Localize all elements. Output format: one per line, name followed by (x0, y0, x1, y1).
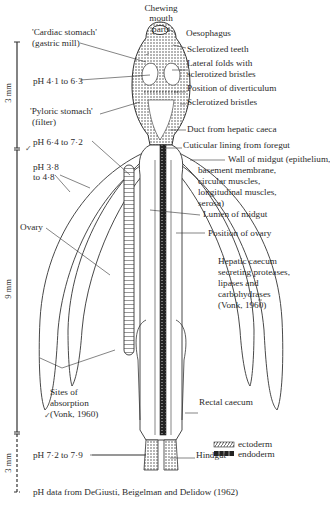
label-lateral-folds-1: Lateral folds with (187, 58, 252, 68)
label-wall-1: Wall of midgut (epithelium, (228, 154, 330, 164)
label-wall-5: serosa) (198, 198, 224, 208)
label-hepatic-5: (Vonk, 1960) (218, 300, 266, 310)
label-hindgut: Hindgut (196, 450, 226, 460)
label-diverticulum: Position of diverticulum (187, 83, 276, 93)
svg-text:✓: ✓ (25, 144, 32, 153)
label-sites-3: (Vonk, 1960) (50, 409, 98, 419)
label-hepatic-3: lipases and (218, 278, 259, 288)
figure-caption: pH data from DeGiusti, Beigelman and Del… (33, 487, 238, 497)
label-ph-foregut: pH 4·1 to 6·3 (33, 76, 83, 86)
label-ph-hindgut: pH 7·2 to 7·9 (33, 450, 83, 460)
label-lateral-folds-2: sclerotized bristles (187, 69, 256, 79)
hindgut (144, 440, 178, 470)
label-pyloric-stomach: 'Pyloric stomach' (30, 106, 93, 116)
label-ovary: Ovary (20, 222, 43, 232)
label-hepatic-2: secreting proteases, (218, 267, 290, 277)
legend-ectoderm-label: ectoderm (238, 439, 272, 449)
label-sites-1: Sites of (50, 387, 78, 397)
label-ph-midgut: pH 6·4 to 7·2 (33, 137, 83, 147)
label-sclerotized-bristles: Sclerotized bristles (187, 97, 257, 107)
scale-label-midgut: 9 mm (3, 279, 13, 299)
label-lumen: Lumen of midgut (203, 209, 267, 219)
scale-label-hindgut: 3 mm (3, 453, 13, 473)
legend-ectoderm-swatch (214, 442, 234, 447)
label-wall-2: basement membrane, (198, 165, 276, 175)
foregut (132, 22, 190, 145)
label-hepatic-1: Hepatic caecum (218, 256, 277, 266)
label-cuticular-lining: Cuticular lining from foregut (183, 140, 290, 150)
label-filter: (filter) (32, 117, 56, 127)
label-duct: Duct from hepatic caeca (187, 124, 277, 134)
label-sites-2: absorption (50, 398, 89, 408)
midgut (124, 145, 186, 440)
label-oesophagus: Oesophagus (186, 28, 231, 38)
label-rectal-caecum: Rectal caecum (199, 397, 253, 407)
label-wall-4: longitudinal muscles, (198, 187, 277, 197)
label-ph-caeca-2: to 4·8 (33, 172, 55, 182)
label-cardiac-stomach: 'Cardiac stomach' (32, 27, 97, 37)
label-sclerotized-teeth: Sclerotized teeth (187, 44, 248, 54)
label-gastric-mill: (gastric mill) (32, 38, 80, 48)
label-wall-3: circular muscles, (198, 176, 260, 186)
label-position-ovary: Position of ovary (208, 228, 271, 238)
scale-bars (14, 42, 20, 492)
label-ph-caeca-1: pH 3·8 (33, 162, 59, 172)
legend-endoderm-label: endoderm (238, 449, 275, 459)
label-chewing-mouth-parts: Chewing mouth parts (140, 3, 182, 34)
scale-label-foregut: 3 mm (3, 83, 13, 103)
label-hepatic-4: carbohydrases (218, 289, 271, 299)
